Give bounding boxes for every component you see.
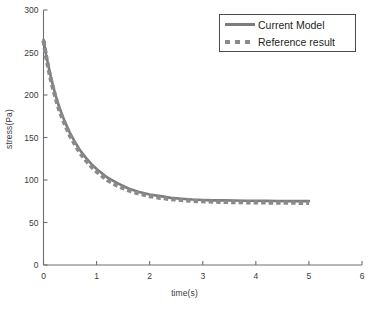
legend-item-current-model: Current Model <box>225 17 325 33</box>
legend-item-reference-result: Reference result <box>225 34 335 50</box>
x-tick-label: 0 <box>34 271 54 281</box>
y-tick-label: 250 <box>13 48 39 58</box>
chart-container: stress(Pa) time(s) 050100150200250300 01… <box>0 0 369 309</box>
legend-label-reference-result: Reference result <box>258 37 335 48</box>
legend-label-current-model: Current Model <box>258 20 325 31</box>
x-tick-label: 5 <box>299 271 319 281</box>
y-tick-label: 50 <box>13 218 39 228</box>
x-tick-label: 1 <box>87 271 107 281</box>
x-tick-label: 4 <box>246 271 266 281</box>
legend-swatch-dashed-line-icon <box>225 37 255 47</box>
chart-series-reference-result <box>44 41 309 203</box>
y-tick-label: 200 <box>13 90 39 100</box>
y-tick-label: 150 <box>13 133 39 143</box>
x-tick-label: 6 <box>352 271 369 281</box>
x-axis-label: time(s) <box>0 288 369 298</box>
chart-series-current-model <box>44 40 309 201</box>
y-tick-label: 0 <box>13 260 39 270</box>
chart-legend: Current Model Reference result <box>219 14 356 52</box>
x-tick-label: 3 <box>193 271 213 281</box>
legend-swatch-solid-line-icon <box>225 20 255 30</box>
y-axis-label: stress(Pa) <box>4 99 14 159</box>
y-tick-label: 300 <box>13 5 39 15</box>
x-tick-label: 2 <box>140 271 160 281</box>
chart-series-group <box>44 40 309 203</box>
y-tick-label: 100 <box>13 175 39 185</box>
